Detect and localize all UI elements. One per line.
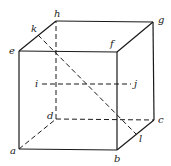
cube-diagram: a b c d e f g h i j k l: [0, 0, 171, 166]
label-l: l: [139, 133, 142, 144]
label-f: f: [109, 38, 116, 49]
label-c: c: [158, 114, 164, 125]
label-k: k: [31, 23, 37, 34]
label-i: i: [35, 78, 38, 89]
label-g: g: [158, 14, 164, 25]
label-b: b: [114, 153, 120, 164]
label-d: d: [47, 110, 53, 121]
label-a: a: [10, 145, 16, 156]
edge-f-e: [19, 51, 117, 52]
edge-a-d: [19, 119, 56, 149]
edge-a-b: [19, 149, 117, 150]
edge-c-b: [117, 120, 154, 150]
edge-g-f: [117, 22, 153, 52]
label-h: h: [54, 8, 60, 19]
edge-g-c: [153, 22, 154, 120]
label-e: e: [9, 45, 15, 56]
label-j: j: [132, 78, 137, 89]
edge-e-h: [19, 21, 56, 51]
edge-d-c: [56, 119, 154, 120]
edge-h-g: [56, 21, 153, 22]
